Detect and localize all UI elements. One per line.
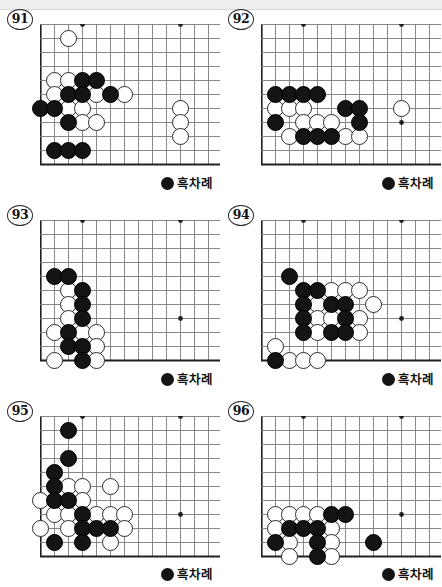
go-board[interactable]	[40, 416, 220, 561]
star-point	[399, 120, 404, 125]
black-stone-icon	[382, 568, 395, 581]
black-stone[interactable]	[60, 268, 77, 285]
star-point	[399, 416, 404, 419]
black-stone[interactable]	[60, 422, 77, 439]
black-stone[interactable]	[281, 268, 298, 285]
problem-cell: 96흑차례	[221, 392, 442, 587]
problem-number-badge: 91	[7, 9, 33, 30]
problem-cell: 94흑차례	[221, 196, 442, 392]
black-stone[interactable]	[309, 548, 326, 565]
black-stone-icon	[161, 177, 174, 190]
turn-indicator: 흑차례	[161, 568, 213, 581]
problem-cell: 93흑차례	[0, 196, 221, 392]
black-stone[interactable]	[46, 534, 63, 551]
black-stone[interactable]	[46, 100, 63, 117]
black-stone[interactable]	[102, 86, 119, 103]
star-point	[399, 24, 404, 27]
white-stone[interactable]	[351, 282, 368, 299]
star-point	[178, 316, 183, 321]
black-stone-icon	[161, 568, 174, 581]
black-stone[interactable]	[74, 86, 91, 103]
white-stone[interactable]	[365, 296, 382, 313]
turn-label: 흑차례	[398, 177, 434, 190]
white-stone[interactable]	[60, 30, 77, 47]
star-point	[178, 24, 183, 27]
problem-number-badge: 93	[7, 205, 33, 226]
problem-cell: 92흑차례	[221, 0, 442, 196]
turn-indicator: 흑차례	[382, 177, 434, 190]
black-stone[interactable]	[309, 282, 326, 299]
star-point	[399, 512, 404, 517]
problem-cell: 95흑차례	[0, 392, 221, 587]
black-stone[interactable]	[267, 352, 284, 369]
star-point	[301, 220, 306, 223]
black-stone[interactable]	[60, 492, 77, 509]
black-stone[interactable]	[88, 72, 105, 89]
star-point	[80, 416, 85, 419]
turn-indicator: 흑차례	[161, 373, 213, 386]
white-stone[interactable]	[281, 548, 298, 565]
white-stone[interactable]	[32, 520, 49, 537]
black-stone[interactable]	[102, 520, 119, 537]
turn-label: 흑차례	[177, 373, 213, 386]
black-stone[interactable]	[365, 534, 382, 551]
problem-number-badge: 96	[228, 401, 254, 422]
black-stone[interactable]	[351, 114, 368, 131]
black-stone[interactable]	[337, 324, 354, 341]
white-stone[interactable]	[88, 114, 105, 131]
turn-label: 흑차례	[177, 568, 213, 581]
go-board[interactable]	[40, 24, 220, 169]
turn-indicator: 흑차례	[382, 373, 434, 386]
star-point	[301, 416, 306, 419]
turn-indicator: 흑차례	[161, 177, 213, 190]
black-stone[interactable]	[74, 534, 91, 551]
go-board[interactable]	[261, 220, 441, 365]
black-stone-icon	[382, 177, 395, 190]
star-point	[399, 220, 404, 223]
black-stone-icon	[382, 373, 395, 386]
problem-number-badge: 92	[228, 9, 254, 30]
black-stone[interactable]	[74, 352, 91, 369]
turn-label: 흑차례	[177, 177, 213, 190]
black-stone[interactable]	[60, 114, 77, 131]
go-board[interactable]	[40, 220, 220, 365]
turn-label: 흑차례	[398, 373, 434, 386]
star-point	[178, 220, 183, 223]
star-point	[80, 220, 85, 223]
problem-cell: 91흑차례	[0, 0, 221, 196]
star-point	[178, 416, 183, 419]
black-stone[interactable]	[74, 142, 91, 159]
black-stone[interactable]	[323, 128, 340, 145]
star-point	[301, 24, 306, 27]
star-point	[178, 512, 183, 517]
white-stone[interactable]	[172, 128, 189, 145]
black-stone-icon	[161, 373, 174, 386]
white-stone[interactable]	[309, 352, 326, 369]
star-point	[80, 24, 85, 27]
black-stone[interactable]	[309, 86, 326, 103]
go-board[interactable]	[261, 24, 441, 169]
black-stone[interactable]	[60, 450, 77, 467]
black-stone[interactable]	[267, 114, 284, 131]
black-stone[interactable]	[267, 534, 284, 551]
problem-grid: 91흑차례92흑차례93흑차례94흑차례95흑차례96흑차례	[0, 0, 442, 587]
go-board[interactable]	[261, 416, 441, 561]
black-stone[interactable]	[295, 324, 312, 341]
page-root: 91흑차례92흑차례93흑차례94흑차례95흑차례96흑차례	[0, 0, 442, 587]
problem-number-badge: 94	[228, 205, 254, 226]
turn-indicator: 흑차례	[382, 568, 434, 581]
white-stone[interactable]	[46, 352, 63, 369]
white-stone[interactable]	[102, 478, 119, 495]
turn-label: 흑차례	[398, 568, 434, 581]
black-stone[interactable]	[337, 506, 354, 523]
white-stone[interactable]	[393, 100, 410, 117]
black-stone[interactable]	[74, 310, 91, 327]
star-point	[399, 316, 404, 321]
problem-number-badge: 95	[7, 401, 33, 422]
